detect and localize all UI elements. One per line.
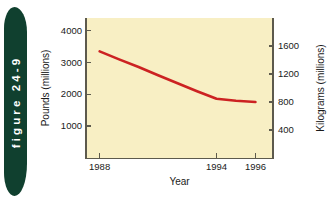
y-axis-left-tick-label: 4000 bbox=[42, 26, 82, 36]
y-axis-left-title: Pounds (millions) bbox=[40, 50, 51, 127]
line-chart: 4000300020001000 16001200800400 19881994… bbox=[0, 0, 334, 203]
y-axis-right-title: Kilograms (millions) bbox=[315, 44, 326, 131]
y-axis-right-tick-labels: 16001200800400 bbox=[278, 0, 318, 203]
y-axis-right-tick-label: 1200 bbox=[278, 69, 312, 79]
y-axis-right-tick-label: 400 bbox=[278, 125, 312, 135]
y-axis-right-tick-label: 1600 bbox=[278, 41, 312, 51]
x-axis-tick-label: 1988 bbox=[82, 161, 118, 172]
x-axis-tick-label: 1994 bbox=[199, 161, 235, 172]
y-axis-right-tick-label: 800 bbox=[278, 97, 312, 107]
series-line-pounds bbox=[86, 18, 273, 158]
x-axis-title: Year bbox=[86, 176, 273, 187]
x-axis-tick-label: 1996 bbox=[237, 161, 273, 172]
